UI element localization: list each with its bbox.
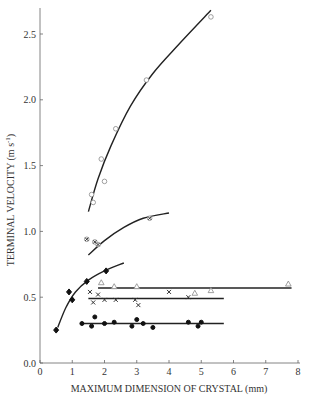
data-point-x	[96, 293, 100, 297]
x-tick-label: 2	[102, 366, 107, 377]
data-point-circle-open	[144, 78, 149, 83]
data-point-circle-open	[91, 200, 96, 205]
y-tick-label: 2.0	[24, 94, 37, 105]
data-point-triangle-open	[98, 280, 104, 285]
fit-curve	[88, 213, 169, 255]
data-point-circle-cross	[147, 216, 152, 221]
data-points	[54, 15, 292, 334]
data-point-circle-open	[89, 192, 94, 197]
y-tick-label: 1.5	[24, 160, 37, 171]
fit-curves	[58, 10, 292, 327]
data-point-x	[88, 290, 92, 294]
y-tick-label: 2.5	[24, 29, 37, 40]
data-point-circle-cross	[96, 242, 101, 247]
data-point-diamond-filled	[54, 327, 59, 333]
y-tick-label: 1.0	[24, 226, 37, 237]
x-tick-label: 5	[199, 366, 204, 377]
x-tick-label: 3	[134, 366, 139, 377]
data-point-circle-filled	[199, 320, 203, 324]
data-point-x	[167, 290, 171, 294]
y-tick-label: 0.5	[24, 292, 37, 303]
data-point-triangle-open	[286, 281, 292, 286]
terminal-velocity-chart: 0123456780.00.51.01.52.02.5 MAXIMUM DIME…	[0, 0, 310, 400]
data-point-triangle-open	[192, 290, 198, 295]
data-point-circle-filled	[141, 322, 145, 326]
data-point-circle-filled	[196, 324, 200, 328]
y-tick-label: 0.0	[24, 358, 37, 369]
data-point-x	[91, 300, 95, 304]
data-point-circle-open	[209, 15, 214, 20]
data-point-circle-open	[102, 179, 107, 184]
data-point-circle-open	[113, 126, 118, 131]
x-tick-label: 6	[231, 366, 236, 377]
x-tick-label: 4	[167, 366, 172, 377]
data-point-circle-filled	[90, 324, 94, 328]
data-point-diamond-filled	[67, 289, 72, 295]
data-point-circle-filled	[93, 315, 97, 319]
data-point-triangle-open	[111, 284, 117, 289]
data-point-circle-filled	[135, 318, 139, 322]
data-point-circle-filled	[80, 322, 84, 326]
data-point-circle-filled	[112, 320, 116, 324]
data-point-circle-cross	[84, 237, 89, 242]
data-point-triangle-open	[134, 284, 140, 289]
data-point-circle-filled	[151, 325, 155, 329]
data-point-circle-filled	[103, 322, 107, 326]
data-point-circle-filled	[186, 320, 190, 324]
x-tick-label: 8	[296, 366, 301, 377]
x-tick-label: 0	[38, 366, 43, 377]
data-point-x	[136, 303, 140, 307]
fit-curve	[58, 263, 124, 327]
data-point-circle-open	[99, 157, 104, 162]
x-tick-label: 1	[70, 366, 75, 377]
x-tick-label: 7	[263, 366, 268, 377]
x-axis-title: MAXIMUM DIMENSION OF CRYSTAL (mm)	[71, 383, 268, 395]
data-point-circle-filled	[130, 324, 134, 328]
data-point-diamond-filled	[70, 297, 75, 303]
y-axis-title: TERMINAL VELOCITY (m s-1)	[4, 134, 17, 266]
